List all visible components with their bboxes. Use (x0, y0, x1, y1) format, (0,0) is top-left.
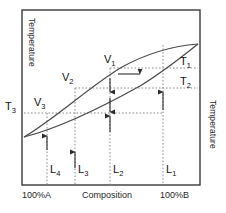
x-axis-label: Composition (82, 191, 132, 200)
liquid-point-L1: L1 (166, 164, 176, 178)
vapour-point-V2: V2 (62, 72, 74, 86)
temperature-label-T3-sub: 3 (12, 106, 16, 115)
vapour-point-V3: V3 (34, 97, 46, 111)
temperature-label-T1-text: T (180, 55, 187, 67)
temperature-label-T2-text: T (180, 75, 187, 87)
temperature-label-T1: T1 (180, 56, 191, 70)
liquid-point-L1-sub: 1 (172, 169, 176, 178)
liquid-point-L3-sub: 3 (84, 169, 88, 178)
vapour-point-V1: V1 (104, 54, 116, 68)
vapour-point-V2-sub: 2 (69, 77, 73, 86)
temperature-label-T3: T3 (5, 101, 16, 115)
phase-diagram-figure: Temperature Temperature 100%A Compositio… (0, 0, 226, 213)
liquid-point-L3: L3 (78, 164, 88, 178)
vapour-point-V3-sub: 3 (41, 102, 45, 111)
temperature-label-T2-sub: 2 (187, 81, 191, 90)
liquid-point-L4-sub: 4 (56, 169, 60, 178)
x-axis-min-label: 100%A (22, 191, 51, 200)
plot-frame (22, 10, 200, 185)
liquid-point-L2: L2 (113, 164, 123, 178)
left-axis-label: Temperature (27, 18, 36, 67)
right-axis-label: Temperature (208, 100, 217, 149)
temperature-label-T1-sub: 1 (187, 61, 191, 70)
temperature-label-T3-text: T (5, 100, 12, 112)
liquid-point-L4: L4 (50, 164, 60, 178)
x-axis-max-label: 100%B (160, 191, 189, 200)
liquid-point-L2-sub: 2 (119, 169, 123, 178)
temperature-label-T2: T2 (180, 76, 191, 90)
vapour-point-V1-sub: 1 (111, 59, 115, 68)
